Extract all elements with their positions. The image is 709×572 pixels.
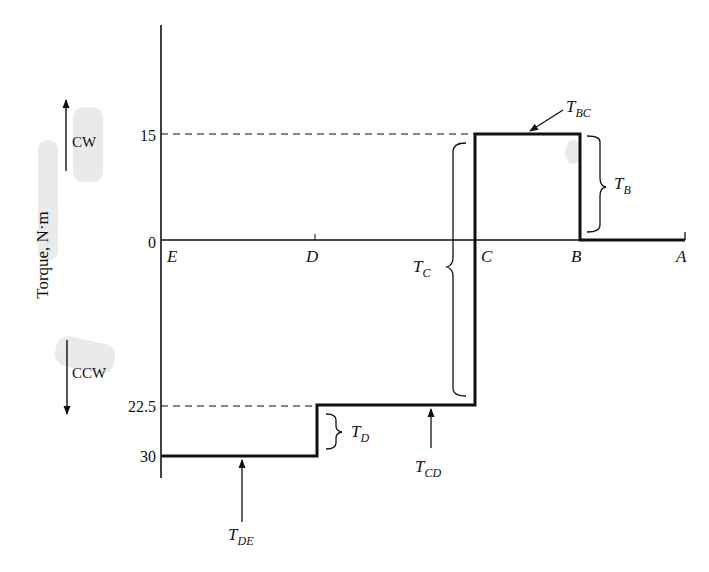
- tb-brace: [587, 136, 606, 232]
- tcd-label: TCD: [415, 457, 441, 480]
- y-tick-0: 0: [148, 234, 156, 251]
- tc-label: TC: [413, 257, 431, 280]
- td-brace: [326, 414, 342, 449]
- point-b: B: [571, 247, 582, 266]
- point-a: A: [675, 247, 687, 266]
- tbc-arrow-icon: [530, 110, 563, 131]
- y-tick-15: 15: [140, 127, 156, 144]
- scan-smudges: [38, 107, 581, 376]
- y-tick-30: 30: [140, 448, 156, 465]
- tde-label: TDE: [228, 525, 254, 548]
- point-c: C: [481, 247, 493, 266]
- y-axis-label: Torque, N·m: [33, 211, 52, 299]
- y-tick-22-5: 22.5: [128, 398, 156, 415]
- point-d: D: [305, 247, 319, 266]
- tc-brace: [447, 143, 466, 396]
- tb-label: TB: [614, 174, 631, 197]
- cw-label: CW: [72, 134, 97, 150]
- ccw-label: CCW: [72, 365, 107, 381]
- point-e: E: [166, 247, 178, 266]
- torque-diagram: Torque, N·m CW CCW 15 0 22.5 30 E D C B …: [0, 0, 709, 572]
- torque-step-line: [161, 134, 685, 456]
- td-label: TD: [351, 422, 369, 445]
- tbc-label: TBC: [566, 97, 592, 120]
